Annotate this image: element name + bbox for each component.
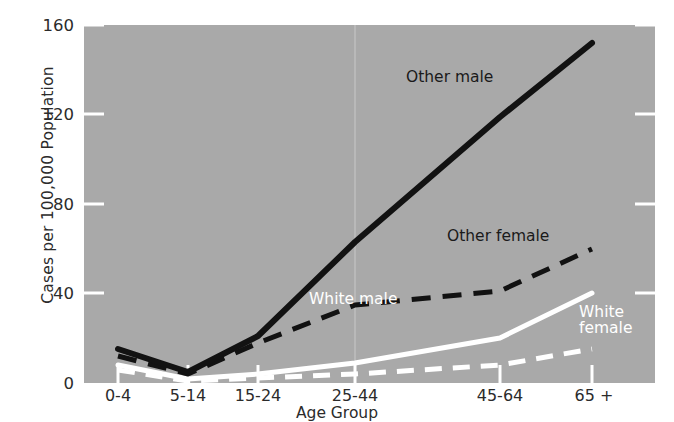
y-tick-40: 40 [16, 284, 74, 303]
y-tick-120: 120 [16, 105, 74, 124]
annotation-white-female: White female [579, 304, 632, 337]
annotation-white-male: White male [309, 291, 397, 307]
x-tick-5-14: 5-14 [170, 386, 206, 405]
annotation-other-female: Other female [447, 228, 549, 244]
x-tick-45-64: 45-64 [477, 386, 524, 405]
x-tick-25-44: 25-44 [332, 386, 379, 405]
x-tick-15-24: 15-24 [235, 386, 282, 405]
x-tick-0-4: 0-4 [105, 386, 131, 405]
plot-area: Other male Other female White male White… [84, 25, 655, 383]
annotation-white-female-line1: White [579, 304, 632, 320]
y-tick-160: 160 [16, 16, 74, 35]
x-tick-65plus: 65 + [575, 386, 614, 405]
y-axis-inner-ticks-right [635, 25, 655, 293]
annotation-other-male: Other male [406, 69, 493, 85]
y-axis-inner-ticks [84, 25, 104, 293]
annotation-white-female-line2: female [579, 320, 632, 336]
series-canvas [84, 25, 655, 383]
y-axis-tick-labels: 160 120 80 40 0 [16, 0, 74, 422]
chart-figure: Cases per 100,000 Population 160 120 80 … [0, 0, 674, 422]
x-axis-title: Age Group [0, 404, 674, 422]
y-tick-80: 80 [16, 195, 74, 214]
y-tick-0: 0 [16, 374, 74, 393]
